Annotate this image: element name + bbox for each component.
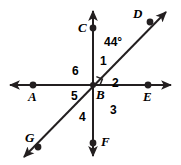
- angle-measure-44: 44°: [104, 36, 122, 48]
- angle-label-6: 6: [72, 65, 79, 77]
- angle-label-4: 4: [79, 111, 86, 123]
- point-label-G: G: [25, 131, 34, 144]
- point-dot-G: [35, 144, 42, 151]
- point-dot-D: [147, 19, 154, 26]
- point-label-C: C: [78, 21, 87, 34]
- point-dot-A: [30, 82, 37, 89]
- point-label-B: B: [96, 88, 105, 101]
- angle-label-1: 1: [100, 55, 107, 67]
- geometry-diagram: A B C D E F G 1 2 3 4 5 6 44°: [0, 0, 181, 165]
- point-label-F: F: [101, 135, 110, 148]
- angle-label-5: 5: [71, 90, 78, 102]
- point-dot-E: [145, 82, 152, 89]
- point-label-D: D: [133, 7, 142, 20]
- angle-label-2: 2: [112, 77, 119, 89]
- angle-label-3: 3: [110, 104, 117, 116]
- point-label-A: A: [28, 90, 37, 103]
- point-dot-F: [90, 140, 97, 147]
- point-dot-C: [90, 25, 97, 32]
- point-label-E: E: [143, 90, 152, 103]
